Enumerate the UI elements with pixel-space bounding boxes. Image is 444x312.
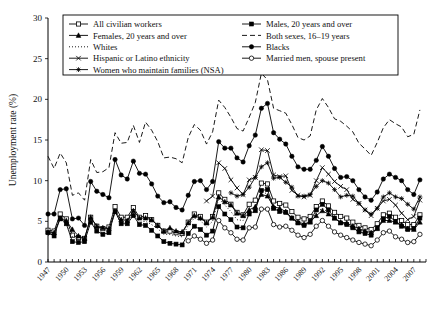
marker-open-circle (418, 232, 422, 236)
x-tick-label: 1980 (236, 265, 253, 283)
x-tick-label: 1953 (72, 265, 89, 283)
marker-open-circle (290, 228, 294, 232)
marker-filled-square (192, 224, 196, 228)
marker-filled-circle (235, 156, 239, 160)
marker-open-square (58, 212, 62, 216)
marker-filled-circle (137, 171, 141, 175)
marker-filled-circle (308, 167, 312, 171)
marker-filled-square (229, 218, 233, 222)
marker-filled-circle (271, 130, 275, 134)
marker-open-circle (204, 241, 208, 245)
marker-filled-circle (320, 144, 324, 148)
marker-open-circle (265, 207, 269, 211)
marker-open-circle (369, 244, 373, 248)
marker-open-square (345, 216, 349, 220)
x-tick-label: 1968 (163, 265, 180, 283)
marker-open-circle (229, 231, 233, 235)
marker-filled-circle (284, 142, 288, 146)
marker-filled-square (235, 225, 239, 229)
marker-filled-circle (241, 160, 245, 164)
x-tick-label: 1989 (291, 265, 308, 283)
y-tick-label: 10 (33, 176, 43, 186)
marker-filled-circle (351, 178, 355, 182)
marker-filled-circle (249, 45, 253, 49)
x-tick-label: 2001 (364, 265, 381, 283)
marker-open-circle (338, 233, 342, 237)
marker-filled-square (198, 227, 202, 231)
marker-filled-circle (52, 212, 56, 216)
marker-open-circle (277, 225, 281, 229)
marker-filled-square (101, 232, 105, 236)
marker-filled-circle (70, 217, 74, 221)
marker-filled-square (156, 234, 160, 238)
marker-filled-circle (131, 159, 135, 163)
unemployment-rate-chart: 0510152025301947195019531956195919621965… (0, 0, 444, 312)
marker-open-circle (363, 242, 367, 246)
marker-open-square (265, 182, 269, 186)
marker-filled-square (162, 240, 166, 244)
marker-filled-square (217, 205, 221, 209)
marker-filled-circle (229, 146, 233, 150)
y-tick-label: 20 (33, 94, 43, 104)
marker-filled-square (76, 240, 80, 244)
marker-filled-square (137, 223, 141, 227)
marker-filled-square (150, 228, 154, 232)
marker-filled-circle (253, 133, 257, 137)
marker-filled-circle (156, 194, 160, 198)
marker-open-circle (186, 239, 190, 243)
marker-filled-circle (387, 172, 391, 176)
marker-filled-circle (302, 167, 306, 171)
marker-open-square (253, 198, 257, 202)
marker-filled-circle (338, 175, 342, 179)
marker-open-circle (387, 229, 391, 233)
marker-filled-circle (82, 223, 86, 227)
legend-label: Females, 20 years and over (93, 31, 187, 41)
marker-filled-circle (363, 195, 367, 199)
series-both-sexes-16-19-years (48, 73, 420, 200)
marker-filled-square (107, 231, 111, 235)
legend-label: Married men, spouse present (266, 53, 366, 63)
marker-filled-square (205, 233, 209, 237)
marker-filled-square (180, 243, 184, 247)
marker-open-circle (406, 240, 410, 244)
marker-open-circle (235, 237, 239, 241)
marker-open-circle (247, 226, 251, 230)
marker-filled-circle (418, 178, 422, 182)
x-tick-label: 1959 (108, 265, 125, 283)
x-tick-label: 1992 (309, 265, 326, 283)
marker-filled-circle (210, 179, 214, 183)
marker-filled-circle (375, 190, 379, 194)
marker-open-circle (332, 230, 336, 234)
marker-filled-circle (119, 173, 123, 177)
marker-filled-circle (265, 101, 269, 105)
marker-open-square (296, 215, 300, 219)
marker-filled-square (70, 240, 74, 244)
marker-filled-circle (217, 139, 221, 143)
chart-canvas: 0510152025301947195019531956195919621965… (0, 0, 444, 312)
marker-filled-square (253, 209, 257, 213)
x-tick-label: 1956 (90, 265, 107, 283)
y-tick-label: 15 (33, 135, 43, 145)
marker-open-circle (192, 234, 196, 238)
y-tick-label: 5 (38, 216, 43, 226)
marker-open-circle (345, 235, 349, 239)
y-tick-label: 25 (33, 54, 43, 64)
x-tick-label: 1986 (273, 265, 290, 283)
marker-filled-circle (332, 166, 336, 170)
marker-open-circle (320, 218, 324, 222)
marker-open-square (302, 217, 306, 221)
marker-filled-circle (162, 200, 166, 204)
marker-filled-square (174, 242, 178, 246)
marker-open-circle (399, 237, 403, 241)
marker-filled-triangle (320, 208, 325, 213)
data-series-group (46, 73, 423, 248)
marker-filled-circle (46, 212, 50, 216)
marker-open-square (259, 181, 263, 185)
marker-filled-circle (113, 157, 117, 161)
marker-open-square (247, 202, 251, 206)
marker-filled-square (211, 229, 215, 233)
marker-open-square (332, 210, 336, 214)
legend-label: Women who maintain families (NSA) (93, 65, 224, 75)
marker-filled-circle (393, 175, 397, 179)
marker-filled-circle (174, 205, 178, 209)
